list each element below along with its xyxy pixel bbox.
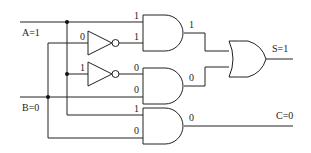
signal-and3-in-bottom: 0 [134, 125, 139, 136]
output-label-s: S=1 [272, 43, 288, 54]
signal-and2-in-bottom: 0 [134, 84, 139, 95]
signal-and3-in-top: 1 [134, 103, 139, 114]
wire-a-to-and3 [67, 22, 143, 115]
signal-not2-out: 0 [134, 62, 139, 73]
not-gate-1 [88, 31, 119, 55]
wire-and1-to-or [184, 33, 229, 51]
signal-not2-in: 1 [80, 62, 85, 73]
input-label-b: B=0 [22, 102, 39, 113]
signal-and3-out: 0 [189, 112, 194, 123]
or-gate [229, 41, 266, 77]
junction-a-not2 [65, 72, 69, 76]
signal-and1-out: 1 [189, 19, 194, 30]
inverter-bubble-icon [112, 40, 119, 47]
circuit-svg: A=1 B=0 S=1 C=0 1 0 1 1 1 0 0 0 1 0 0 [0, 0, 311, 153]
signal-not1-in: 0 [80, 31, 85, 42]
signal-not1-out: 1 [134, 31, 139, 42]
and-gate-1 [143, 15, 183, 51]
wire-b-to-and3 [48, 43, 143, 138]
signal-and2-out: 0 [189, 72, 194, 83]
and-gate-3 [143, 108, 183, 144]
output-label-c: C=0 [276, 110, 293, 121]
logic-circuit-diagram: A=1 B=0 S=1 C=0 1 0 1 1 1 0 0 0 1 0 0 [0, 0, 311, 153]
signal-and1-in-top: 1 [134, 10, 139, 21]
inverter-bubble-icon [112, 71, 119, 78]
junction-a [65, 20, 69, 24]
not-gate-2 [88, 62, 119, 86]
input-label-a: A=1 [22, 27, 40, 38]
and-gate-2 [143, 68, 183, 104]
junction-b [46, 95, 50, 99]
